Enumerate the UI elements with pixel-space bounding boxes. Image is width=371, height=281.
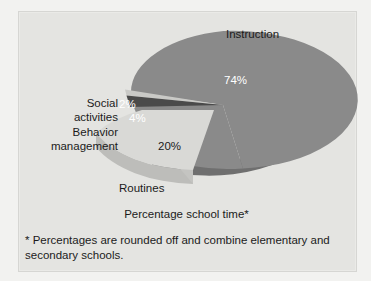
pie-chart-area: Instruction Social activities Behavior m… <box>18 11 355 270</box>
social-label-line1: Social <box>87 97 118 109</box>
behavior-label-line2: management <box>51 140 118 152</box>
chart-axis-title: Percentage school time* <box>18 208 355 220</box>
social-label-line2: activities <box>74 111 118 123</box>
slice-label-behavior-management: Behavior management <box>26 126 118 153</box>
slice-value-instruction: 74% <box>224 74 247 86</box>
slice-value-social-activities: 2% <box>119 98 136 110</box>
chart-footnote: * Percentages are rounded off and combin… <box>25 233 350 263</box>
slice-label-social-activities: Social activities <box>48 97 118 124</box>
slice-label-routines: Routines <box>119 182 164 196</box>
slice-label-instruction: Instruction <box>226 28 279 42</box>
slice-value-routines: 20% <box>158 140 181 152</box>
chart-figure: Instruction Social activities Behavior m… <box>0 0 371 281</box>
slice-value-behavior-management: 4% <box>129 112 146 124</box>
behavior-label-line1: Behavior <box>73 126 118 138</box>
